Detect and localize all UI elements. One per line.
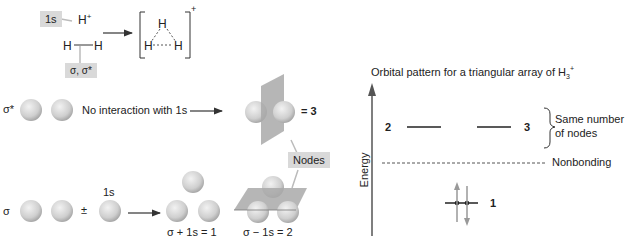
h2-right: H: [94, 39, 103, 53]
sphere: [20, 99, 42, 121]
level-3-label: 3: [524, 121, 530, 133]
h3-left: H: [144, 39, 153, 53]
brace-text-line1: Same number: [555, 112, 624, 126]
same-nodes-text: Same number of nodes: [555, 112, 624, 140]
no-interaction-text: No interaction with 1s: [82, 104, 187, 116]
h-plus: H+: [78, 12, 91, 27]
h2-left: H: [63, 39, 72, 53]
tag-sigma-sigma-star: σ, σ*: [65, 63, 97, 78]
nodes-tag: Nodes: [288, 152, 330, 168]
level-1-label: 1: [490, 197, 496, 209]
h3-top: H: [158, 17, 167, 31]
brace: [544, 108, 555, 148]
title-sub: 3: [566, 73, 570, 80]
sphere: [51, 99, 73, 121]
sigma-label: σ: [3, 205, 10, 217]
label-1s: 1s: [103, 186, 115, 198]
result-sigma-minus-1s: σ − 1s = 2: [243, 226, 293, 238]
level-2-label: 2: [385, 121, 391, 133]
h-plus-charge: +: [87, 12, 92, 21]
result-sigma-plus-1s: σ + 1s = 1: [167, 226, 217, 238]
h3-right: H: [174, 39, 183, 53]
energy-diagram-title: Orbital pattern for a triangular array o…: [371, 65, 574, 80]
result-3: = 3: [301, 105, 317, 117]
h3-charge: +: [191, 4, 196, 14]
brace-text-line2: of nodes: [555, 126, 624, 140]
sigma-star-label: σ*: [3, 103, 14, 115]
diagram-graphics: [0, 0, 626, 243]
energy-axis-label: Energy: [358, 150, 370, 190]
tag-1s-connector: [61, 19, 72, 21]
tag-1s: 1s: [40, 11, 62, 27]
plus-minus: ±: [81, 204, 87, 216]
right-bracket: [185, 12, 190, 58]
title-text: Orbital pattern for a triangular array o…: [371, 66, 566, 78]
title-sup: +: [570, 65, 574, 72]
h-plus-symbol: H: [78, 13, 87, 27]
nonbonding-label: Nonbonding: [552, 156, 611, 168]
